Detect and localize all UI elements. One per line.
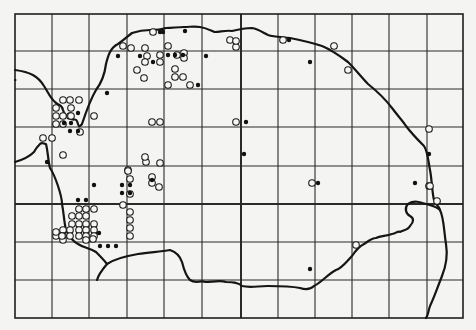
open-circle-record — [149, 119, 156, 126]
open-circle-record — [127, 233, 134, 240]
open-circle-record — [83, 237, 90, 244]
open-circle-record — [142, 45, 149, 52]
open-circle-record — [76, 206, 83, 213]
filled-dot-record — [116, 54, 120, 58]
open-circle-record — [40, 135, 47, 142]
open-circle-record — [309, 180, 316, 187]
filled-dot-record — [120, 183, 124, 187]
filled-dot-record — [114, 244, 118, 248]
filled-dot-record — [150, 178, 154, 182]
open-circle-record — [68, 113, 75, 120]
filled-dot-record — [151, 60, 155, 64]
filled-dot-record — [242, 152, 246, 156]
filled-dot-record — [84, 198, 88, 202]
open-circle-record — [90, 236, 97, 243]
open-circle-record — [233, 38, 240, 45]
filled-dot-record — [128, 191, 132, 195]
filled-dot-record — [76, 198, 80, 202]
filled-dot-record — [76, 111, 80, 115]
open-circle-record — [280, 37, 287, 44]
open-circle-record — [53, 105, 60, 112]
filled-dot-record — [128, 183, 132, 187]
open-circle-record — [83, 206, 90, 213]
filled-dot-record — [244, 120, 248, 124]
filled-dot-record — [427, 152, 431, 156]
open-circle-record — [187, 82, 194, 89]
open-circle-record — [427, 183, 434, 190]
open-circle-record — [76, 97, 83, 104]
filled-dot-record — [92, 183, 96, 187]
filled-dot-record — [413, 181, 417, 185]
filled-dot-record — [166, 53, 170, 57]
open-circle-record — [76, 233, 83, 240]
filled-dot-record — [62, 121, 66, 125]
open-circle-record — [67, 97, 74, 104]
open-circle-record — [150, 29, 157, 36]
filled-dot-record — [308, 60, 312, 64]
open-circle-record — [157, 59, 164, 66]
open-circle-record — [68, 105, 75, 112]
open-circle-record — [69, 213, 76, 220]
open-circle-record — [120, 43, 127, 50]
open-circle-record — [76, 213, 83, 220]
open-circle-record — [331, 43, 338, 50]
filled-dot-record — [68, 129, 72, 133]
open-circle-record — [134, 67, 141, 74]
open-circle-record — [53, 229, 60, 236]
open-circle-record — [127, 217, 134, 224]
filled-dot-record — [181, 53, 185, 57]
open-circle-record — [156, 184, 163, 191]
open-circle-record — [353, 242, 360, 249]
open-circle-record — [157, 52, 164, 59]
open-circle-record — [83, 213, 90, 220]
open-circle-record — [128, 45, 135, 52]
open-circle-record — [165, 82, 172, 89]
open-circle-record — [127, 209, 134, 216]
open-circle-record — [127, 225, 134, 232]
open-circle-record — [426, 126, 433, 133]
open-circle-record — [157, 160, 164, 167]
filled-dot-record — [69, 121, 73, 125]
filled-dot-record — [196, 83, 200, 87]
open-circle-record — [91, 113, 98, 120]
filled-dot-record — [204, 54, 208, 58]
filled-dot-record — [45, 160, 49, 164]
filled-dot-record — [105, 91, 109, 95]
distribution-map — [0, 0, 476, 330]
filled-dot-record — [98, 244, 102, 248]
open-circle-record — [120, 202, 127, 209]
open-circle-record — [434, 198, 441, 205]
filled-dot-record — [308, 267, 312, 271]
open-circle-record — [142, 154, 149, 161]
open-circle-record — [60, 97, 67, 104]
filled-dot-record — [183, 29, 187, 33]
filled-dot-record — [138, 54, 142, 58]
open-circle-record — [67, 233, 74, 240]
open-circle-record — [91, 206, 98, 213]
open-circle-record — [142, 59, 149, 66]
open-circle-record — [157, 119, 164, 126]
open-circle-record — [49, 135, 56, 142]
open-circle-record — [172, 74, 179, 81]
open-circle-record — [127, 176, 134, 183]
filled-dot-record — [106, 244, 110, 248]
open-circle-record — [180, 74, 187, 81]
filled-dot-record — [316, 181, 320, 185]
open-circle-record — [233, 119, 240, 126]
filled-dot-record — [97, 231, 101, 235]
open-circle-record — [60, 152, 67, 159]
filled-dot-record — [120, 191, 124, 195]
open-circle-record — [59, 233, 66, 240]
open-circle-record — [53, 113, 60, 120]
open-circle-record — [125, 168, 132, 175]
filled-dot-record — [161, 30, 165, 34]
open-circle-record — [60, 113, 67, 120]
open-circle-record — [345, 67, 352, 74]
open-circle-record — [172, 66, 179, 73]
filled-dot-record — [76, 129, 80, 133]
open-circle-record — [165, 43, 172, 50]
filled-dot-record — [287, 38, 291, 42]
open-circle-record — [53, 121, 60, 128]
filled-dot-record — [173, 53, 177, 57]
open-circle-record — [141, 75, 148, 82]
